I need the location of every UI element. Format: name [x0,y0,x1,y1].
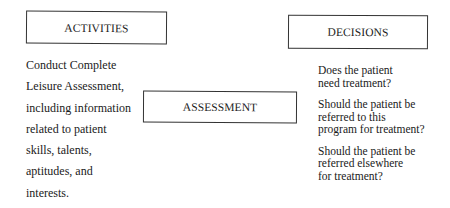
activities-line: aptitudes, and [26,161,131,182]
decision-line: for treatment? [318,170,425,183]
activities-line: skills, talents, [26,140,131,161]
decision-line: Should the patient be [318,98,425,111]
decision-line: referred elsewhere [318,157,425,170]
decisions-title: DECISIONS [327,26,388,38]
decision-line: referred to this [318,111,425,124]
activities-description: Conduct Complete Leisure Assessment, inc… [26,55,131,204]
decision-question: Does the patient need treatment? [318,64,425,89]
decision-line: Does the patient [318,64,425,77]
decision-question: Should the patient be referred to this p… [318,98,425,136]
activities-line: including information [26,98,131,119]
decision-line: program for treatment? [318,123,425,136]
activities-line: interests. [26,183,131,204]
activities-title: ACTIVITIES [64,21,128,33]
activities-line: Conduct Complete [26,55,131,76]
assessment-box: ASSESSMENT [143,91,297,124]
decision-question: Should the patient be referred elsewhere… [318,145,425,183]
activities-header-box: ACTIVITIES [26,11,167,45]
decision-line: Should the patient be [318,145,425,158]
activities-line: related to patient [26,119,131,140]
activities-line: Leisure Assessment, [26,76,131,97]
decisions-list: Does the patient need treatment? Should … [318,64,425,191]
assessment-title: ASSESSMENT [183,101,258,113]
decision-line: need treatment? [318,77,425,90]
decisions-header-box: DECISIONS [288,15,428,50]
